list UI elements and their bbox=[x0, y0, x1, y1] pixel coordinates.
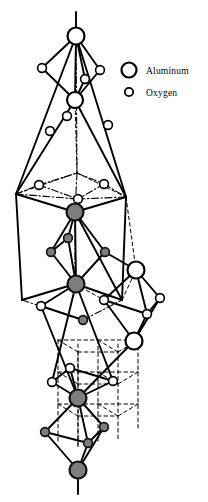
atom-o-rhomb-left bbox=[35, 181, 44, 190]
atom-al-mid-lower bbox=[68, 276, 85, 293]
crystal-structure-figure: Aluminum Oxygen bbox=[0, 0, 208, 502]
atom-al-mid-upper bbox=[67, 204, 84, 221]
atom-o-left-low bbox=[37, 302, 46, 311]
atom-o-mid-right bbox=[101, 248, 110, 257]
lattice-diagram: Aluminum Oxygen bbox=[0, 0, 208, 502]
atom-o-upper-c bbox=[104, 121, 113, 130]
atom-al-lower-inner bbox=[70, 390, 87, 407]
atom-al-top-apex bbox=[68, 28, 85, 45]
bond-line bbox=[75, 36, 76, 100]
atom-o-bot-right bbox=[100, 423, 109, 432]
atom-o-lower-left bbox=[48, 378, 57, 387]
atom-al-bottom-apex bbox=[70, 462, 87, 479]
legend-marker-aluminum bbox=[122, 63, 137, 78]
atom-o-right-right bbox=[156, 294, 165, 303]
atom-o-top-right bbox=[96, 66, 105, 75]
atom-o-lower-top bbox=[66, 364, 75, 373]
atom-o-mid-top bbox=[64, 234, 73, 243]
atom-o-upper-a bbox=[63, 112, 72, 121]
legend-marker-oxygen bbox=[125, 88, 133, 96]
atom-al-upper-inner bbox=[67, 92, 83, 108]
atom-o-top-left bbox=[38, 64, 47, 73]
atom-al-right-upper bbox=[128, 262, 145, 279]
legend-label-aluminum: Aluminum bbox=[146, 66, 189, 76]
atom-o-top-inner bbox=[81, 75, 90, 84]
atom-o-lower-right bbox=[109, 377, 118, 386]
atom-o-upper-b bbox=[46, 127, 55, 136]
legend-label-oxygen: Oxygen bbox=[146, 88, 177, 98]
atom-o-rhomb-front bbox=[74, 195, 83, 204]
atom-o-mid-left bbox=[47, 248, 56, 257]
atom-al-right-lower bbox=[126, 333, 143, 350]
atom-o-right-left bbox=[100, 296, 109, 305]
atom-o-rhomb-right bbox=[100, 180, 109, 189]
atom-o-bot-front bbox=[84, 439, 93, 448]
atom-o-bot-left bbox=[41, 428, 50, 437]
atom-o-right-front bbox=[143, 310, 152, 319]
bond-line bbox=[75, 212, 76, 284]
atom-o-center-low bbox=[79, 316, 88, 325]
